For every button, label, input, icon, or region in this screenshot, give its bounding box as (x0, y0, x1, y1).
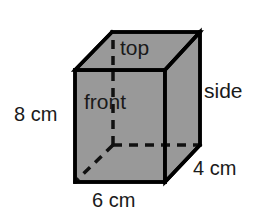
face-label-top: top (120, 37, 149, 58)
face-label-side: side (204, 80, 243, 101)
dimension-label-height: 8 cm (14, 104, 57, 124)
dimension-label-depth: 4 cm (193, 158, 236, 178)
front-face (75, 70, 165, 182)
prism-figure: top front side 8 cm 6 cm 4 cm (0, 0, 265, 222)
face-label-front: front (84, 91, 126, 112)
dimension-label-width: 6 cm (92, 190, 135, 210)
